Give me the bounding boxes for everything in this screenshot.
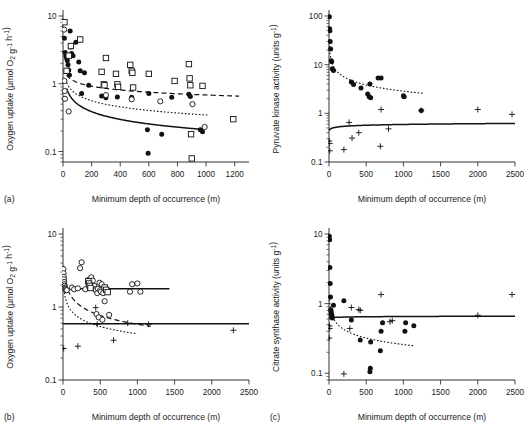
data-point-open (202, 124, 207, 129)
panel_b-y-axis-title: Oxygen uptake (µmol O2 g-1 h-1) (1, 245, 17, 369)
panel_a-series-filled-circles (62, 29, 205, 156)
panel-c-citrate-synthase-activity: 0.111005001000150020002500Citrate syntha… (266, 218, 529, 436)
data-point-filled (159, 132, 164, 137)
panel_a-series-open-circles (62, 27, 208, 130)
data-point-square (62, 20, 67, 25)
panel_a-xtick-label-2: 400 (113, 170, 127, 179)
data-point-filled (351, 82, 356, 87)
data-point-plus (111, 337, 117, 343)
data-point-open (102, 299, 107, 304)
data-point-open (127, 289, 132, 294)
data-point-filled (328, 46, 333, 51)
panel_a-ytick-label-2: 10 (47, 12, 57, 21)
data-point-square (128, 62, 133, 67)
data-point-filled (328, 294, 333, 299)
data-point-plus (356, 307, 362, 313)
panel_c-x-axis-title: Minimum depth of occurrence (m) (358, 412, 487, 422)
data-point-open (190, 102, 195, 107)
data-point-filled (145, 127, 150, 132)
data-point-square (146, 71, 151, 76)
data-point-filled (329, 59, 334, 64)
data-point-filled (379, 329, 384, 334)
data-point-open (62, 78, 67, 83)
data-point-filled (411, 323, 416, 328)
data-point-plus (509, 111, 515, 117)
data-point-plus (349, 135, 355, 141)
panel_b-x-axis-title: Minimum depth of occurrence (m) (92, 412, 221, 422)
data-point-square (172, 78, 177, 83)
panel_pyruvate-svg: 0.111010005001000150020002500Pyruvate ki… (266, 0, 529, 218)
data-point-filled (68, 29, 73, 34)
panel_c-xtick-label-3: 1500 (431, 388, 450, 397)
data-point-plus (509, 292, 515, 298)
data-point-filled (62, 36, 67, 41)
data-point-open (79, 260, 84, 265)
data-point-filled (328, 39, 333, 44)
data-point-filled (146, 151, 151, 156)
data-point-filled (380, 320, 385, 325)
data-point-filled (188, 94, 193, 99)
data-point-filled (82, 70, 87, 75)
panel_b-ytick-label-1: 1 (52, 303, 57, 312)
panel_c-xtick-label-4: 2000 (469, 388, 488, 397)
panel_c-ytick-label-1: 1 (318, 300, 323, 309)
data-point-plus (357, 307, 363, 313)
data-point-filled (341, 298, 346, 303)
data-point-plus (356, 130, 362, 136)
data-point-filled (169, 95, 174, 100)
panel_c-panel-letter: (c) (270, 412, 280, 422)
data-point-open (62, 88, 67, 93)
panel_pyruvate-xtick-label-4: 2000 (469, 170, 488, 179)
data-point-plus (93, 305, 99, 311)
data-point-plus (475, 312, 481, 318)
data-point-plus (327, 325, 333, 331)
panel_a-x-axis-title: Minimum depth of occurrence (m) (92, 194, 221, 204)
data-point-open (129, 97, 134, 102)
data-point-square (103, 55, 108, 60)
data-point-square (188, 132, 193, 137)
panel_c-y-axis-title: Citrate synthase activity (units g-1) (268, 242, 281, 372)
data-point-filled (331, 303, 336, 308)
data-point-plus (94, 321, 100, 327)
data-point-filled (368, 340, 373, 345)
data-point-filled (79, 91, 84, 96)
panel_c-xtick-label-1: 500 (359, 388, 373, 397)
panel_b-svg: 0.111005001000150020002500Oxygen uptake … (0, 218, 263, 436)
data-point-filled (146, 91, 151, 96)
data-point-filled (379, 76, 384, 81)
panel_pyruvate-xtick-label-5: 2500 (506, 170, 525, 179)
data-point-open (100, 317, 105, 322)
panel_b-xtick-label-5: 2500 (240, 388, 259, 397)
data-point-filled (65, 58, 70, 63)
data-point-filled (115, 94, 120, 99)
data-point-square (187, 76, 192, 81)
panel_b-panel-letter: (b) (4, 412, 15, 422)
panel_pyruvate-ytick-label-0: 0.1 (311, 158, 323, 167)
data-point-plus (378, 292, 384, 298)
panel_pyruvate-xtick-label-1: 500 (359, 170, 373, 179)
data-point-square (99, 69, 104, 74)
data-point-open (107, 312, 112, 317)
data-point-square (77, 37, 82, 42)
data-point-plus (75, 343, 81, 349)
panel_a-xtick-label-0: 0 (61, 170, 66, 179)
data-point-open (64, 288, 69, 293)
panel_pyruvate-y-axis-title: Pyruvate kinase activity (units g-1) (268, 24, 281, 153)
panel_c-series-filled-circles (327, 234, 416, 375)
panel_a-y-axis-title: Oxygen uptake (µmol O2 g-1 h-1) (1, 27, 17, 151)
data-point-filled (402, 329, 407, 334)
data-point-plus (418, 107, 424, 113)
panel_c-dotted-fit (330, 299, 414, 345)
panel_pyruvate-xtick-label-0: 0 (327, 170, 332, 179)
panel_pyruvate-dotted-fit (329, 46, 422, 93)
data-point-square (231, 116, 236, 121)
data-point-square (105, 289, 110, 294)
panel_c-ytick-label-2: 10 (313, 230, 323, 239)
panel_pyruvate-ytick-label-1: 1 (318, 109, 323, 118)
data-point-filled (330, 316, 335, 321)
data-point-plus (341, 147, 347, 153)
data-point-filled (200, 129, 205, 134)
data-point-filled (402, 94, 407, 99)
data-point-square (68, 43, 73, 48)
data-point-plus (386, 126, 392, 132)
